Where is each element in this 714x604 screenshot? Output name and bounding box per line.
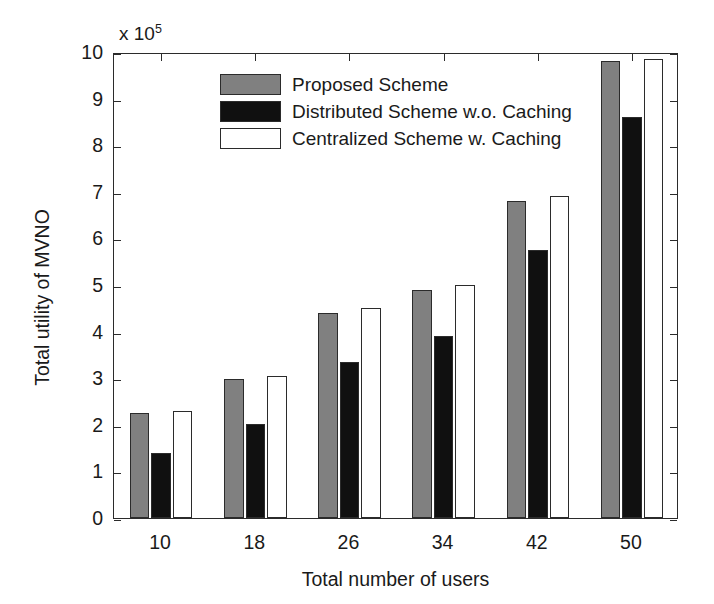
y-axis-tick-right (670, 427, 677, 428)
x-axis-tick-top (349, 54, 350, 61)
y-axis-tick-right (670, 194, 677, 195)
y-axis-tick-left (114, 240, 121, 241)
x-axis-tick-top (538, 54, 539, 61)
bar-50-series-2 (644, 59, 664, 518)
bar-18-series-0 (224, 379, 244, 518)
x-axis-tick-label: 50 (601, 533, 661, 553)
y-axis-tick-right (670, 473, 677, 474)
bar-50-series-0 (601, 61, 621, 518)
y-axis-title: Total utility of MVNO (31, 108, 54, 488)
y-axis-tick-left (114, 101, 121, 102)
bar-26-series-2 (361, 308, 381, 518)
y-axis-tick-label: 6 (57, 230, 103, 250)
legend-item: Proposed Scheme (220, 71, 572, 98)
y-axis-tick-right (670, 520, 677, 521)
bar-18-series-2 (267, 376, 287, 518)
legend-label: Proposed Scheme (292, 75, 448, 94)
y-axis-tick-right (670, 54, 677, 55)
bar-10-series-1 (151, 453, 171, 518)
y-axis-tick-label: 8 (57, 136, 103, 156)
y-axis-tick-right (670, 101, 677, 102)
x-axis-title: Total number of users (113, 568, 678, 591)
legend-swatch-icon (220, 101, 281, 122)
legend-label: Distributed Scheme w.o. Caching (292, 102, 572, 121)
bar-34-series-2 (455, 285, 475, 518)
y-axis-tick-right (670, 380, 677, 381)
x-axis-tick-top (161, 54, 162, 61)
y-axis-tick-left (114, 427, 121, 428)
chart-legend: Proposed SchemeDistributed Scheme w.o. C… (220, 69, 572, 152)
y-axis-tick-left (114, 54, 121, 55)
x-axis-tick-top (632, 54, 633, 61)
y-axis-tick-label: 0 (57, 509, 103, 529)
legend-item: Centralized Scheme w. Caching (220, 125, 572, 152)
y-axis-tick-right (670, 240, 677, 241)
x-axis-tick-top (255, 54, 256, 61)
bar-26-series-0 (318, 313, 338, 518)
y-axis-tick-label: 1 (57, 463, 103, 483)
y-axis-exponent: x 105 (119, 22, 162, 45)
x-axis-tick-top (444, 54, 445, 61)
legend-swatch-icon (220, 128, 281, 149)
x-axis-tick-label: 10 (130, 533, 190, 553)
y-axis-tick-label: 7 (57, 183, 103, 203)
plot-area: Proposed SchemeDistributed Scheme w.o. C… (113, 53, 678, 519)
y-axis-tick-right (670, 334, 677, 335)
y-axis-tick-label: 5 (57, 276, 103, 296)
bar-18-series-1 (246, 424, 266, 518)
x-axis-tick-label: 26 (318, 533, 378, 553)
y-axis-tick-label: 10 (57, 43, 103, 63)
y-axis-tick-label: 4 (57, 323, 103, 343)
bar-34-series-0 (412, 290, 432, 518)
bar-34-series-1 (434, 336, 454, 518)
bar-26-series-1 (340, 362, 360, 518)
y-axis-tick-label: 9 (57, 90, 103, 110)
x-axis-tick-label: 34 (413, 533, 473, 553)
y-axis-exponent-base: x 10 (119, 23, 155, 44)
y-axis-tick-right (670, 147, 677, 148)
y-axis-tick-left (114, 334, 121, 335)
bar-42-series-1 (528, 250, 548, 518)
y-axis-tick-label: 2 (57, 416, 103, 436)
y-axis-tick-left (114, 287, 121, 288)
bar-42-series-0 (507, 201, 527, 518)
legend-item: Distributed Scheme w.o. Caching (220, 98, 572, 125)
y-axis-tick-left (114, 520, 121, 521)
bar-50-series-1 (622, 117, 642, 518)
bar-42-series-2 (550, 196, 570, 518)
bar-10-series-2 (173, 411, 193, 518)
legend-swatch-icon (220, 74, 281, 95)
x-axis-tick-label: 18 (224, 533, 284, 553)
y-axis-tick-left (114, 473, 121, 474)
y-axis-tick-left (114, 147, 121, 148)
y-axis-tick-left (114, 194, 121, 195)
bar-10-series-0 (130, 413, 150, 518)
y-axis-exponent-power: 5 (155, 22, 162, 36)
y-axis-tick-left (114, 380, 121, 381)
legend-label: Centralized Scheme w. Caching (292, 129, 561, 148)
bar-chart-figure: x 105 Total utility of MVNO Total number… (0, 0, 714, 604)
y-axis-tick-label: 3 (57, 369, 103, 389)
y-axis-tick-right (670, 287, 677, 288)
x-axis-tick-label: 42 (507, 533, 567, 553)
